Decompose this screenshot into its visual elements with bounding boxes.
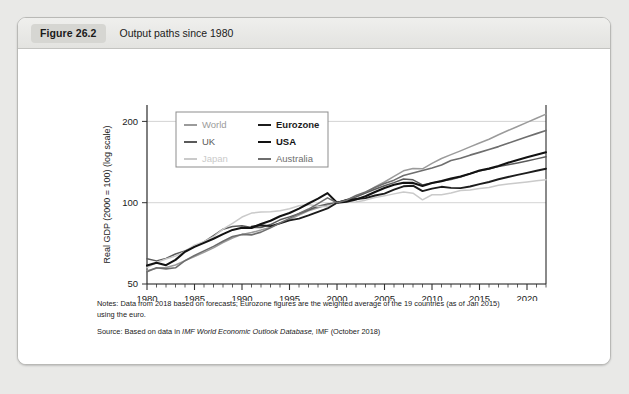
legend-label-uk: UK — [202, 136, 216, 147]
chart-plot: 50100200Real GDP (2000 = 100) (log scale… — [18, 49, 611, 301]
figure-header: Figure 26.2 Output paths since 1980 — [18, 18, 610, 49]
figure-caption: Output paths since 1980 — [120, 27, 234, 39]
notes-line-2: using the euro. — [97, 310, 567, 321]
notes-label: Notes: — [97, 299, 118, 308]
source-label: Source: — [97, 327, 122, 336]
figure-card: Figure 26.2 Output paths since 1980 5010… — [17, 17, 611, 365]
notes-text-1: Data from 2018 based on forecasts; Euroz… — [118, 299, 499, 308]
legend-label-world: World — [202, 119, 227, 130]
figure-number-badge: Figure 26.2 — [31, 24, 106, 43]
line-chart-svg: 50100200Real GDP (2000 = 100) (log scale… — [18, 49, 611, 301]
notes-line-1: Notes: Data from 2018 based on forecasts… — [97, 299, 567, 310]
figure-notes: Notes: Data from 2018 based on forecasts… — [97, 299, 567, 345]
ytick-label-50: 50 — [127, 278, 138, 289]
source-text-pre: Based on data in — [122, 327, 182, 336]
figure-body: 50100200Real GDP (2000 = 100) (log scale… — [18, 49, 610, 365]
legend-label-eurozone: Eurozone — [276, 119, 319, 130]
notes-block: Notes: Data from 2018 based on forecasts… — [97, 299, 567, 320]
source-italic-title: IMF World Economic Outlook Database, — [182, 327, 314, 336]
legend-label-japan: Japan — [202, 153, 228, 164]
source-block: Source: Based on data in IMF World Econo… — [97, 327, 567, 338]
y-axis-title: Real GDP (2000 = 100) (log scale) — [102, 125, 112, 263]
legend-label-australia: Australia — [276, 153, 314, 164]
source-text-post: IMF (October 2018) — [314, 327, 381, 336]
ytick-label-200: 200 — [122, 116, 138, 127]
ytick-label-100: 100 — [122, 197, 138, 208]
source-line: Source: Based on data in IMF World Econo… — [97, 327, 567, 338]
legend-label-usa: USA — [276, 136, 296, 147]
